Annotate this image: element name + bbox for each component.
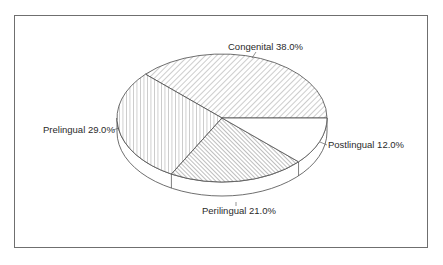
slice-label-perilingual: Perilingual 21.0% bbox=[202, 205, 276, 216]
pie-chart: Congenital 38.0%Postlingual 12.0%Perilin… bbox=[0, 0, 443, 265]
slice-label-congenital: Congenital 38.0% bbox=[228, 41, 304, 52]
pie-top-slices bbox=[117, 54, 327, 182]
slice-label-postlingual: Postlingual 12.0% bbox=[328, 139, 405, 150]
slice-label-prelingual: Prelingual 29.0% bbox=[43, 124, 115, 135]
